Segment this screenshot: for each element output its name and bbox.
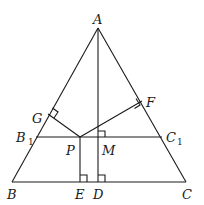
label-E: E bbox=[74, 187, 85, 202]
segment-PF bbox=[80, 101, 142, 137]
segment-AB bbox=[12, 28, 98, 182]
segment-AC bbox=[98, 28, 186, 182]
label-G: G bbox=[32, 111, 42, 126]
label-A: A bbox=[92, 12, 102, 27]
label-C1: C bbox=[166, 130, 176, 145]
label-C1-subscript: 1 bbox=[177, 137, 183, 147]
right-angle-mark-E bbox=[80, 175, 87, 182]
geometry-diagram: A B C D E P M G F B 1 C 1 bbox=[0, 0, 204, 205]
label-C: C bbox=[182, 187, 192, 202]
label-M: M bbox=[101, 143, 116, 158]
label-P: P bbox=[65, 143, 75, 158]
label-D: D bbox=[92, 187, 104, 202]
segment-PG bbox=[48, 114, 80, 137]
label-B: B bbox=[6, 187, 17, 202]
label-F: F bbox=[145, 95, 156, 110]
label-B1-subscript: 1 bbox=[28, 137, 34, 147]
label-B1: B bbox=[15, 130, 26, 145]
right-angle-mark-M bbox=[98, 131, 105, 137]
right-angle-mark-D bbox=[98, 175, 105, 182]
right-angle-mark-G bbox=[53, 108, 59, 118]
